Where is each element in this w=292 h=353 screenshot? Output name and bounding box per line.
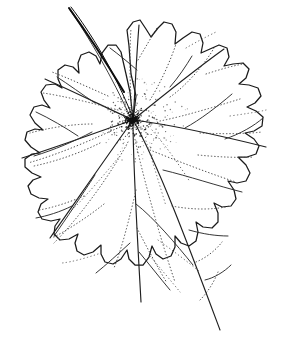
leaf-drawing-canvas (0, 0, 292, 353)
leaf-illustration-figure (0, 0, 292, 353)
